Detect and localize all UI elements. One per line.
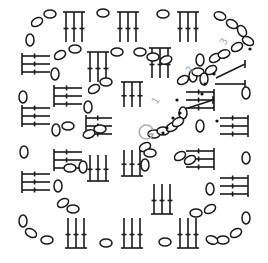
corner-stitch	[215, 80, 245, 88]
chain-oval	[30, 16, 44, 29]
dc-cluster	[177, 12, 199, 42]
chain-oval	[44, 10, 56, 18]
chain-oval	[159, 238, 171, 246]
dc-cluster	[65, 218, 87, 248]
slip-stitch-dot	[178, 111, 181, 114]
chain-oval	[87, 83, 101, 96]
corner-stitch	[216, 60, 245, 78]
chain-oval	[67, 205, 79, 213]
chain-oval	[242, 152, 250, 164]
dc-cluster	[121, 150, 143, 176]
dc-cluster	[87, 155, 109, 181]
dc-cluster	[22, 171, 50, 193]
chain-oval	[24, 227, 38, 240]
chain-oval	[144, 149, 156, 157]
chain-oval	[203, 203, 217, 216]
chain-oval	[190, 209, 202, 217]
chain-oval	[176, 74, 190, 87]
chain-oval	[52, 124, 60, 136]
slip-stitch-dot	[171, 116, 174, 119]
dc-cluster	[177, 218, 199, 248]
chain-oval	[242, 87, 250, 99]
chain-stitches	[19, 9, 255, 247]
chain-oval	[69, 45, 81, 53]
chain-oval	[217, 236, 229, 244]
chain-oval	[19, 91, 27, 103]
slip-stitch-dot	[203, 82, 206, 85]
chain-oval	[230, 41, 244, 54]
chain-oval	[134, 48, 146, 56]
chain-oval	[62, 122, 74, 130]
slip-stitch-dot	[212, 72, 215, 75]
chain-oval	[159, 54, 173, 66]
round-number-label: 3	[217, 36, 230, 47]
dc-cluster	[121, 218, 143, 248]
chain-oval	[94, 125, 106, 133]
chain-oval	[64, 164, 76, 172]
chain-oval	[41, 236, 53, 244]
chain-oval	[205, 234, 219, 246]
chain-oval	[79, 161, 87, 173]
slip-stitch-dot	[200, 92, 203, 95]
round-numbers: 123	[149, 36, 230, 106]
chain-oval	[213, 10, 227, 22]
chain-oval	[100, 239, 112, 247]
chain-oval	[196, 120, 204, 132]
chain-oval	[20, 146, 28, 158]
dc-cluster	[54, 85, 82, 107]
slip-stitch-dot	[215, 119, 218, 122]
dc-cluster	[22, 53, 50, 75]
chain-oval	[100, 78, 112, 86]
slip-stitch-dot	[175, 98, 178, 101]
chain-oval	[53, 49, 67, 62]
chain-oval	[54, 180, 62, 192]
slip-stitch-dot	[165, 126, 168, 129]
chain-oval	[26, 34, 34, 46]
chain-oval	[19, 215, 27, 227]
chain-oval	[141, 159, 149, 171]
chain-oval	[242, 212, 250, 224]
chain-oval	[51, 68, 59, 80]
corner-stitch	[188, 96, 213, 108]
slip-stitch-dot	[248, 47, 251, 50]
dc-cluster	[220, 115, 248, 137]
slip-stitch-dot	[161, 131, 164, 134]
dc-cluster	[22, 105, 50, 127]
dc-cluster	[151, 184, 173, 214]
chain-oval	[229, 227, 243, 240]
chain-oval	[147, 53, 159, 61]
chain-oval	[157, 10, 169, 18]
dc-cluster	[121, 82, 143, 107]
dc-cluster	[63, 12, 85, 42]
chain-oval	[196, 54, 204, 66]
crochet-chart: 123 Crochet granny square chart	[0, 0, 268, 263]
chain-oval	[217, 48, 231, 60]
chain-oval	[206, 183, 214, 195]
dc-cluster	[220, 175, 248, 197]
dc-cluster	[117, 12, 139, 42]
chain-oval	[97, 9, 109, 17]
round-number-label: 1	[149, 95, 162, 106]
chain-oval	[84, 101, 92, 113]
chain-oval	[111, 48, 123, 56]
